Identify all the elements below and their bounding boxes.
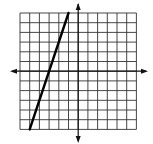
axes xyxy=(10,3,148,143)
x-axis-right-arrow-icon xyxy=(141,69,148,74)
coordinate-graph xyxy=(0,0,153,144)
y-axis-up-arrow-icon xyxy=(76,3,81,10)
x-axis-left-arrow-icon xyxy=(10,69,17,74)
y-axis-down-arrow-icon xyxy=(76,136,81,143)
